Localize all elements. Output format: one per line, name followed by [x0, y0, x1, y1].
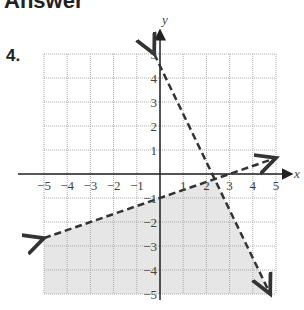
svg-text:3: 3: [226, 178, 233, 193]
svg-text:5: 5: [151, 47, 158, 62]
shaded-region: [44, 179, 270, 294]
svg-text:1: 1: [180, 178, 187, 193]
svg-text:4: 4: [250, 178, 257, 193]
svg-text:−3: −3: [143, 239, 157, 254]
svg-text:−5: −5: [143, 287, 157, 302]
svg-text:2: 2: [203, 178, 210, 193]
svg-text:−1: −1: [130, 178, 144, 193]
svg-text:3: 3: [151, 95, 158, 110]
svg-text:−4: −4: [60, 178, 74, 193]
svg-text:−5: −5: [37, 178, 51, 193]
svg-text:−2: −2: [143, 215, 157, 230]
svg-text:5: 5: [273, 178, 280, 193]
inequality-graph: xy −5−4−3−2−11234554321−1−2−3−4−5: [0, 0, 304, 310]
svg-text:−4: −4: [143, 263, 157, 278]
svg-text:−3: −3: [83, 178, 97, 193]
svg-text:1: 1: [151, 143, 158, 158]
svg-text:2: 2: [151, 119, 158, 134]
svg-text:−2: −2: [107, 178, 121, 193]
svg-text:y: y: [160, 12, 168, 27]
svg-text:−1: −1: [143, 191, 157, 206]
svg-text:4: 4: [151, 71, 158, 86]
svg-text:x: x: [293, 166, 300, 181]
